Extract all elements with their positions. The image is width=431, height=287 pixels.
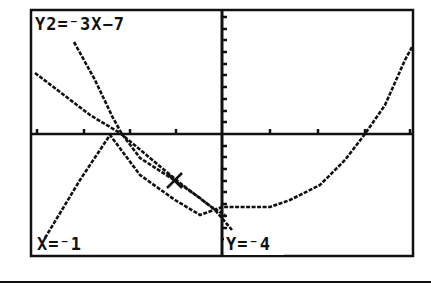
equation-label: Y2=⁻3X−7 (35, 14, 125, 34)
graph-screen: Y2=⁻3X−7 X=⁻1 Y=⁻4 (0, 0, 431, 287)
cursor-x-readout: X=⁻1 (37, 234, 82, 254)
cursor-y-readout: Y=⁻4 (226, 234, 271, 254)
